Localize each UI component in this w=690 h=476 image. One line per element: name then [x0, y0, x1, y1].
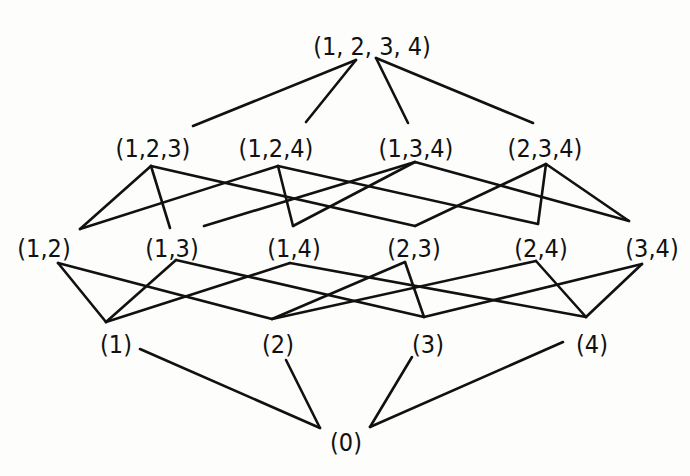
- node-label-1: (1): [100, 330, 132, 359]
- edge-124-24: [278, 166, 538, 224]
- edge-123-12: [80, 166, 151, 229]
- node-label-24: (2,4): [514, 234, 567, 263]
- node-label-124: (1,2,4): [239, 134, 314, 163]
- node-label-1234: (1, 2, 3, 4): [313, 32, 431, 61]
- edge-234-23: [415, 164, 546, 226]
- edge-12-1: [58, 263, 106, 322]
- node-label-4: (4): [576, 330, 608, 359]
- node-label-23: (2,3): [387, 234, 440, 263]
- node-label-13: (1,3): [145, 234, 198, 263]
- edge-14-4: [290, 263, 586, 317]
- node-label-2: (2): [262, 330, 294, 359]
- node-label-34: (3,4): [625, 234, 678, 263]
- edge-1234-123: [193, 60, 356, 126]
- edge-234-24: [538, 164, 546, 224]
- node-label-12: (1,2): [17, 234, 70, 263]
- edge-34-3: [424, 264, 642, 317]
- edge-4-0: [370, 342, 563, 427]
- edge-124-12: [80, 166, 278, 229]
- node-label-3: (3): [412, 330, 444, 359]
- edge-234-34: [546, 164, 629, 221]
- edge-2-0: [286, 360, 320, 428]
- node-label-234: (2,3,4): [508, 134, 583, 163]
- edge-123-13: [151, 166, 170, 228]
- node-label-134: (1,3,4): [379, 134, 454, 163]
- hasse-diagram: (1, 2, 3, 4)(1,2,3)(1,2,4)(1,3,4)(2,3,4)…: [0, 0, 690, 476]
- edge-1234-134: [376, 58, 408, 123]
- node-layer: (1, 2, 3, 4)(1,2,3)(1,2,4)(1,3,4)(2,3,4)…: [17, 32, 678, 457]
- node-label-14: (1,4): [267, 234, 320, 263]
- node-label-123: (1,2,3): [116, 134, 191, 163]
- node-label-0: (0): [330, 428, 362, 457]
- edge-14-1: [106, 263, 290, 322]
- edge-1-0: [140, 349, 320, 428]
- edge-1234-234: [376, 58, 533, 123]
